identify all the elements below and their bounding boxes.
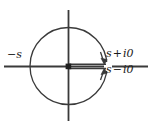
origin-marker bbox=[66, 64, 72, 70]
label-s-minus-i0: s−i0 bbox=[106, 64, 133, 75]
label-s-plus-i0-operator: + bbox=[112, 47, 123, 60]
label-negative-s: −s bbox=[7, 49, 22, 60]
label-s-plus-i0-term: i0 bbox=[123, 47, 134, 60]
complex-plane-contour-diagram: −s s+i0 s−i0 bbox=[0, 0, 148, 126]
label-s-minus-i0-term: i0 bbox=[123, 63, 134, 76]
label-s-minus-i0-variable: s bbox=[106, 63, 112, 76]
label-s-plus-i0-variable: s bbox=[106, 47, 112, 60]
label-s-minus-i0-operator: − bbox=[112, 63, 123, 76]
label-s-plus-i0: s+i0 bbox=[106, 48, 133, 59]
